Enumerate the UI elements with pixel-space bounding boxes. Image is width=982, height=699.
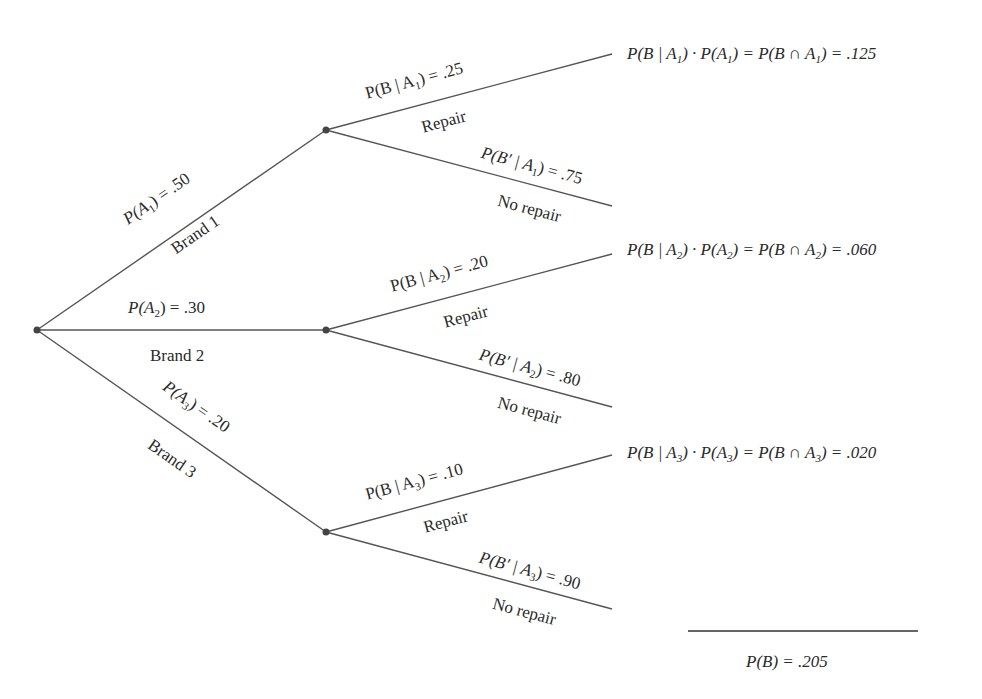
- joint-prob-brand3: P(B | A3) · P(A3) = P(B ∩ A3) = .020: [627, 444, 876, 461]
- joint-prob-brand1: P(B | A1) · P(A1) = P(B ∩ A1) = .125: [627, 45, 876, 62]
- root-node: [34, 327, 41, 334]
- brand1-node: [323, 127, 330, 134]
- joint-prob-brand2: P(B | A2) · P(A2) = P(B ∩ A2) = .060: [627, 241, 876, 258]
- brand2-node: [323, 327, 330, 334]
- total-prob-b: P(B) = .205: [746, 653, 828, 670]
- event-label-brand2: Brand 2: [150, 347, 204, 364]
- prob-label-brand2: P(A2) = .30: [128, 299, 205, 316]
- brand3-node: [323, 529, 330, 536]
